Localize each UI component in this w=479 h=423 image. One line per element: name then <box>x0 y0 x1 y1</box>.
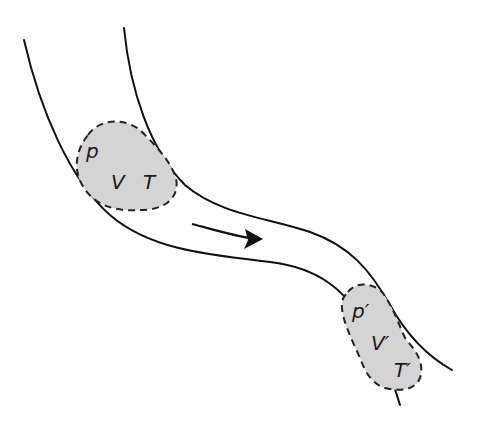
label-temperature: T <box>143 170 157 194</box>
label-volume: V <box>111 170 126 194</box>
parcel-initial-boundary <box>77 122 177 211</box>
label-pressure: p <box>85 139 99 163</box>
stream-tube-diagram: p V T p′ V′ T′ <box>0 0 479 423</box>
label-volume-prime: V′ <box>371 331 390 355</box>
tube-wall-upper <box>124 28 452 370</box>
flow-arrow-icon <box>192 224 263 249</box>
label-pressure-prime: p′ <box>351 299 370 323</box>
parcel-final: p′ V′ T′ <box>342 285 422 390</box>
label-temperature-prime: T′ <box>394 358 411 382</box>
tube-wall-lower <box>24 40 400 405</box>
parcel-initial: p V T <box>77 122 177 211</box>
